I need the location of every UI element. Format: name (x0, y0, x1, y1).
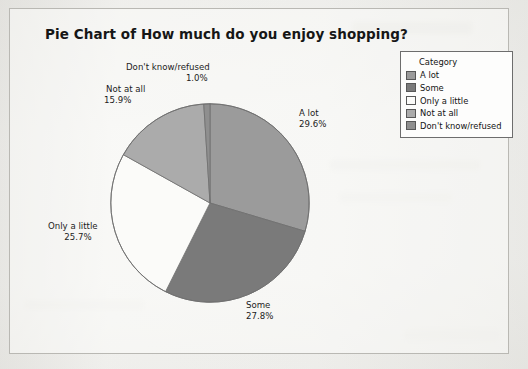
slice-label-percent: 27.8% (246, 311, 273, 322)
slice-label-percent: 25.7% (48, 232, 98, 243)
slice-label-percent: 1.0% (126, 73, 210, 84)
legend-item-only-a-little[interactable]: Only a little (406, 94, 507, 107)
legend-swatch-icon (406, 121, 416, 130)
slice-label-not-at-all: Not at all 15.9% (104, 84, 145, 106)
legend-swatch-icon (406, 109, 416, 118)
legend-item-label: Only a little (420, 96, 468, 106)
legend-item-label: Don't know/refused (420, 121, 502, 131)
slice-label-dont-know-refused: Don't know/refused 1.0% (126, 62, 210, 84)
slice-label-a-lot: A lot 29.6% (299, 108, 326, 130)
slice-label-some: Some 27.8% (246, 300, 273, 322)
slice-label-text: Don't know/refused (126, 62, 210, 72)
slice-label-text: Only a little (48, 221, 98, 231)
pie-chart (110, 103, 310, 303)
legend-item-label: Some (420, 83, 444, 93)
legend-swatch-icon (406, 71, 416, 80)
legend-item-dont-know-refused[interactable]: Don't know/refused (406, 119, 507, 132)
legend-item-label: Not at all (420, 108, 458, 118)
slice-label-text: Some (246, 300, 270, 310)
slice-label-percent: 29.6% (299, 119, 326, 130)
legend-swatch-icon (406, 96, 416, 105)
pie-svg (110, 103, 310, 303)
legend-item-some[interactable]: Some (406, 82, 507, 95)
slice-label-percent: 15.9% (104, 95, 145, 106)
legend-item-label: A lot (420, 70, 439, 80)
legend: Category A lot Some Only a little Not at… (400, 51, 513, 138)
chart-title: Pie Chart of How much do you enjoy shopp… (45, 26, 408, 42)
slice-label-text: A lot (299, 108, 319, 118)
slice-label-text: Not at all (106, 84, 145, 94)
legend-swatch-icon (406, 83, 416, 92)
legend-title: Category (419, 57, 507, 67)
slice-label-only-a-little: Only a little 25.7% (48, 221, 98, 243)
legend-item-a-lot[interactable]: A lot (406, 69, 507, 82)
scanned-page-background: Pie Chart of How much do you enjoy shopp… (0, 0, 528, 369)
legend-item-not-at-all[interactable]: Not at all (406, 107, 507, 120)
